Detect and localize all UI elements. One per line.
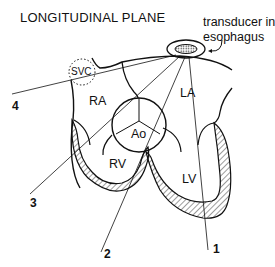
- transducer-icon: [167, 40, 205, 58]
- left-atrium-wall: [214, 88, 232, 123]
- mitral-leaflet-right: [198, 123, 214, 145]
- transducer-label-line1: transducer in: [203, 15, 275, 30]
- scan-line-2: [101, 57, 185, 252]
- scan-line-label-3: 3: [30, 197, 37, 209]
- label-la: LA: [180, 87, 195, 100]
- transducer-label: transducer in esophagus: [203, 15, 275, 45]
- figure-title: LONGITUDINAL PLANE: [20, 11, 165, 24]
- scan-line-label-1: 1: [213, 243, 220, 255]
- scan-line-label-2: 2: [104, 248, 111, 260]
- label-svc: SVC: [71, 67, 92, 77]
- aortic-root: [112, 98, 166, 152]
- transducer-label-line2: esophagus: [203, 30, 275, 45]
- label-ao: Ao: [131, 128, 146, 141]
- label-lv: LV: [182, 173, 196, 186]
- tricuspid-leaflet-right: [103, 135, 112, 155]
- label-rv: RV: [109, 158, 126, 171]
- label-ra: RA: [89, 95, 106, 108]
- scan-line-label-4: 4: [12, 100, 19, 112]
- echocardiography-diagram: LONGITUDINAL PLANE transducer in esophag…: [0, 0, 275, 267]
- scan-lines: [12, 55, 208, 252]
